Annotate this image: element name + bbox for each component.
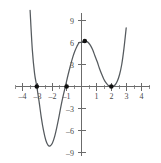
coordinate-plane-svg: –4 –3 –2 –1 1 2 3 4 9 6 3 –3 –6 –9 [0,0,161,163]
x-tick-label: 2 [110,92,114,101]
x-tick-label: –2 [48,92,57,101]
y-tick-label: –9 [65,149,74,158]
y-tick-label: –6 [65,127,74,136]
x-tick-label: 3 [125,92,129,101]
polynomial-curve [30,10,126,146]
polynomial-graph-figure: –4 –3 –2 –1 1 2 3 4 9 6 3 –3 –6 –9 [0,0,161,163]
x-tick-label: –4 [18,92,27,101]
x-tick-label: 4 [140,92,144,101]
marked-point-root [64,84,69,89]
y-tick-label: 9 [70,17,74,26]
marked-points-layer [35,39,114,89]
marked-point-local-maximum [82,39,87,44]
marked-point-double-root [109,84,114,89]
marked-point-root [35,84,40,89]
x-tick-label: 1 [95,92,99,101]
x-tick-label: –3 [33,92,42,101]
y-tick-label: –3 [65,105,74,114]
y-tick-label: 6 [70,39,74,48]
